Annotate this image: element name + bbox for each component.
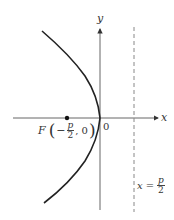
parabola-curve bbox=[42, 31, 100, 203]
parabola-diagram: y x 0 F ( − p 2 , 0 ) x = p 2 bbox=[0, 0, 174, 220]
directrix-fraction: p 2 bbox=[157, 176, 165, 195]
focus-comma-zero: , 0 bbox=[75, 126, 88, 136]
focus-minus: − bbox=[56, 125, 65, 136]
directrix-equals: = bbox=[146, 181, 154, 191]
focus-open-paren: ( bbox=[49, 122, 56, 139]
focus-frac-den: 2 bbox=[68, 131, 74, 140]
y-axis-label: y bbox=[97, 13, 103, 24]
directrix-frac-den: 2 bbox=[158, 186, 164, 195]
focus-close-paren: ) bbox=[89, 122, 96, 139]
x-axis-label: x bbox=[161, 112, 167, 123]
directrix-label: x = p 2 bbox=[137, 176, 165, 195]
directrix-lhs: x bbox=[137, 181, 143, 191]
focus-fraction: p 2 bbox=[67, 121, 75, 140]
origin-label: 0 bbox=[103, 122, 109, 132]
focus-label: F ( − p 2 , 0 ) bbox=[38, 121, 96, 140]
focus-letter: F bbox=[38, 125, 46, 136]
